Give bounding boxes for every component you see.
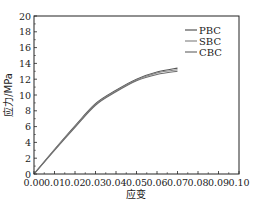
y-tick-label: 4: [25, 137, 31, 148]
legend: PBCSBCCBC: [185, 25, 222, 58]
y-tick-label: 16: [19, 42, 31, 53]
x-axis-title: 应变: [126, 188, 146, 200]
x-tick-label: 0.04: [105, 177, 126, 188]
y-tick-label: 8: [25, 105, 31, 116]
series-line-cbc: [34, 71, 178, 174]
x-tick-label: 0.05: [126, 177, 147, 188]
y-tick-label: 6: [25, 121, 31, 132]
legend-label-cbc: CBC: [199, 47, 222, 58]
x-tick-label: 0.06: [146, 177, 167, 188]
y-tick-label: 14: [19, 58, 31, 69]
x-tick-label: 0.02: [64, 177, 85, 188]
y-tick-label: 18: [19, 26, 31, 37]
y-tick-label: 10: [19, 90, 31, 101]
series-line-sbc: [34, 70, 178, 174]
x-tick-label: 0.09: [208, 177, 229, 188]
x-tick-label: 0.07: [167, 177, 188, 188]
x-tick-label: 0.01: [44, 177, 65, 188]
y-tick-label: 20: [19, 11, 31, 22]
data-series: [34, 68, 178, 174]
stress-strain-chart: 0.000.010.020.030.040.050.060.070.080.09…: [0, 0, 257, 206]
y-tick-label: 0: [25, 169, 31, 180]
x-tick-label: 0.08: [187, 177, 208, 188]
series-line-pbc: [34, 68, 178, 174]
legend-label-sbc: SBC: [199, 36, 221, 47]
x-tick-label: 0.10: [228, 177, 249, 188]
y-axis-title: 应力/MPa: [2, 73, 14, 117]
y-tick-label: 12: [19, 74, 31, 85]
x-tick-label: 0.03: [85, 177, 106, 188]
legend-label-pbc: PBC: [199, 25, 221, 36]
y-tick-label: 2: [25, 153, 31, 164]
